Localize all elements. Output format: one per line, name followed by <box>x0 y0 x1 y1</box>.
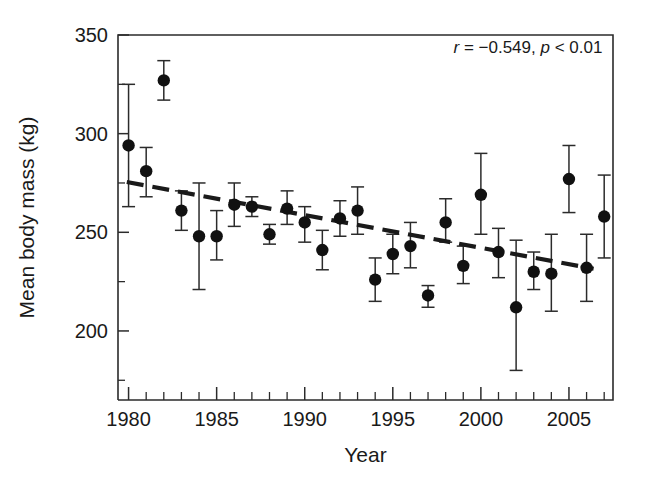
x-tick-label: 1995 <box>371 408 416 430</box>
data-point <box>281 202 293 214</box>
data-point <box>545 268 557 280</box>
scatter-plot-svg: 200250300350 198019851990199520002005 r … <box>0 0 648 494</box>
data-point <box>316 244 328 256</box>
data-point <box>175 204 187 216</box>
y-tick-label: 300 <box>75 123 108 145</box>
data-point <box>228 198 240 210</box>
y-axis-title: Mean body mass (kg) <box>15 117 38 319</box>
data-point <box>246 200 258 212</box>
annotation-layer: r = −0.549, p < 0.01 <box>454 38 603 57</box>
data-point <box>475 189 487 201</box>
data-point <box>580 262 592 274</box>
data-point <box>422 289 434 301</box>
x-tick-label: 1985 <box>194 408 239 430</box>
data-point <box>210 230 222 242</box>
data-point <box>404 240 416 252</box>
data-point <box>528 266 540 278</box>
data-point <box>122 139 134 151</box>
x-tick-label: 1990 <box>282 408 327 430</box>
data-point <box>387 248 399 260</box>
data-point <box>598 210 610 222</box>
data-point <box>351 204 363 216</box>
data-point <box>193 230 205 242</box>
x-tick-label: 2005 <box>547 408 592 430</box>
x-tick-label: 1980 <box>106 408 151 430</box>
chart-figure: 200250300350 198019851990199520002005 r … <box>0 0 648 494</box>
data-point <box>457 260 469 272</box>
y-tick-label: 350 <box>75 24 108 46</box>
data-point <box>492 246 504 258</box>
data-point <box>563 173 575 185</box>
y-tick-label: 200 <box>75 320 108 342</box>
data-point <box>369 273 381 285</box>
data-point <box>140 165 152 177</box>
data-point <box>510 301 522 313</box>
y-tick-label: 250 <box>75 221 108 243</box>
x-axis-title: Year <box>344 443 386 466</box>
data-point <box>334 212 346 224</box>
data-point <box>439 216 451 228</box>
data-point <box>299 216 311 228</box>
data-point <box>263 228 275 240</box>
x-tick-label: 2000 <box>459 408 504 430</box>
data-point <box>158 74 170 86</box>
correlation-stats: r = −0.549, p < 0.01 <box>454 38 603 57</box>
